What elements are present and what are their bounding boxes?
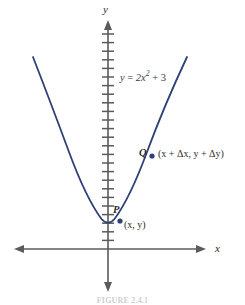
point-p-label: P	[113, 205, 119, 216]
equation-constant-term: + 3	[150, 72, 166, 83]
y-axis-bottom-arrowhead	[104, 282, 112, 292]
point-q-marker	[149, 153, 154, 158]
equation-label: y = 2x2 + 3	[120, 70, 166, 83]
point-p-coordinates: (x, y)	[124, 220, 146, 230]
equation-coefficient: 2x	[136, 72, 146, 83]
x-axis-label: x	[215, 243, 220, 254]
x-axis-right-arrowhead	[196, 245, 206, 253]
figure-caption: FIGURE 2.4.1	[0, 296, 245, 305]
point-q-label: Q	[139, 148, 147, 159]
x-axis	[14, 245, 206, 253]
x-axis-left-arrowhead	[14, 245, 24, 253]
point-p-marker	[117, 218, 122, 223]
figure-container: y x y = 2x2 + 3 P (x, y) Q (x + Δx, y + …	[0, 0, 245, 305]
y-axis-label: y	[103, 4, 108, 15]
y-axis-top-arrowhead	[104, 20, 112, 30]
point-q-coordinates: (x + Δx, y + Δy)	[158, 149, 224, 159]
equation-equals: =	[125, 72, 136, 83]
y-axis	[104, 20, 112, 292]
